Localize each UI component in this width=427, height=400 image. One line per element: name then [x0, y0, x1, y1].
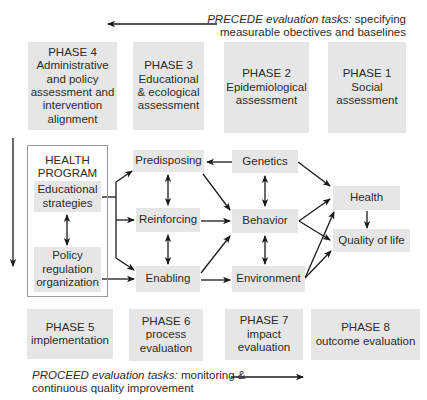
phase-2-desc-2: assessment — [236, 94, 297, 107]
policy-line1: Policy — [52, 249, 83, 262]
phase-2-box: PHASE 2 Epidemiological assessment — [224, 42, 309, 133]
behavior-to-health-arrow — [299, 199, 330, 221]
environment-box: Environment — [232, 266, 305, 292]
phase-4-desc-4: intervention — [43, 99, 102, 112]
phase-4-desc-1: Administrative — [36, 59, 108, 72]
phase-7-box: PHASE 7 impact evaluation — [225, 309, 303, 360]
edu-to-predisposing-arrow — [116, 171, 132, 182]
environment-label: Environment — [236, 272, 301, 285]
quality-of-life-box: Quality of life — [333, 229, 410, 252]
phase-6-desc-1: process — [146, 328, 186, 341]
reinforcing-label: Reinforcing — [139, 213, 197, 226]
enabling-box: Enabling — [136, 266, 200, 292]
enabling-label: Enabling — [146, 272, 191, 285]
policy-line2: regulation — [42, 263, 93, 276]
phase-4-desc-3: assessment and — [31, 86, 115, 99]
phase-3-title: PHASE 3 — [144, 59, 193, 72]
genetics-to-health-arrow — [298, 162, 330, 186]
phase-5-title: PHASE 5 — [46, 321, 95, 334]
policy-line3: organization — [36, 276, 99, 289]
health-box: Health — [333, 186, 400, 210]
phase-1-desc-1: Social — [351, 81, 382, 94]
phase-8-title: PHASE 8 — [341, 321, 390, 334]
proceed-note: PROCEED evaluation tasks: monitoring & c… — [32, 369, 246, 395]
proceed-note-label: PROCEED evaluation tasks: — [32, 369, 178, 381]
educational-strategies-line2: strategies — [43, 197, 93, 210]
phase-8-box: PHASE 8 outcome evaluation — [311, 309, 420, 360]
environment-to-qol-arrow — [305, 251, 331, 278]
phase-4-box: PHASE 4 Administrative and policy assess… — [28, 42, 117, 130]
health-program-title: HEALTH PROGRAM — [28, 154, 107, 181]
predisposing-box: Predisposing — [133, 150, 204, 172]
phase-3-desc-3: assessment — [138, 99, 199, 112]
genetics-box: Genetics — [232, 150, 298, 173]
edu-to-enabling-arrow — [116, 258, 134, 270]
phase-4-desc-5: alignment — [48, 113, 98, 126]
educational-strategies-line1: Educational — [37, 183, 97, 196]
educational-strategies-box: Educational strategies — [34, 181, 101, 212]
phase-1-box: PHASE 1 Social assessment — [328, 42, 406, 133]
precede-note: PRECEDE evaluation tasks: specifying mea… — [207, 13, 406, 39]
reinforcing-box: Reinforcing — [136, 208, 200, 232]
phase-6-title: PHASE 6 — [142, 315, 191, 328]
predisposing-to-behavior-arrow — [203, 174, 230, 210]
phase-2-desc-1: Epidemiological — [226, 81, 307, 94]
behavior-label: Behavior — [242, 214, 287, 227]
phase-2-title: PHASE 2 — [242, 67, 291, 80]
phase-1-desc-2: assessment — [336, 94, 397, 107]
health-program-title-line2: PROGRAM — [28, 167, 107, 180]
phase-4-title: PHASE 4 — [48, 46, 97, 59]
precede-note-label: PRECEDE evaluation tasks: — [207, 13, 351, 25]
genetics-label: Genetics — [242, 155, 287, 168]
proceed-note-line2: continuous quality improvement — [32, 382, 246, 395]
quality-of-life-label: Quality of life — [338, 234, 404, 247]
policy-regulation-box: Policy regulation organization — [34, 247, 101, 292]
health-label: Health — [350, 191, 383, 204]
phase-5-desc-1: implementation — [31, 334, 109, 347]
health-program-title-line1: HEALTH — [28, 154, 107, 167]
phase-8-desc-1: outcome evaluation — [316, 335, 416, 348]
phase-4-desc-2: and policy — [47, 73, 99, 86]
phase-7-desc-2: evaluation — [238, 341, 290, 354]
precede-note-line2: measurable obectives and baselines — [207, 26, 406, 39]
phase-6-box: PHASE 6 process evaluation — [129, 309, 203, 361]
phase-3-desc-1: Educational — [138, 73, 198, 86]
phase-3-box: PHASE 3 Educational & ecological assessm… — [133, 42, 204, 130]
predisposing-label: Predisposing — [135, 154, 201, 167]
behavior-box: Behavior — [232, 209, 298, 233]
precede-note-text: specifying — [352, 13, 406, 25]
phase-5-box: PHASE 5 implementation — [27, 309, 113, 359]
phase-7-title: PHASE 7 — [240, 314, 289, 327]
phase-1-title: PHASE 1 — [343, 67, 392, 80]
proceed-note-text: monitoring & — [178, 369, 246, 381]
enabling-to-behavior-arrow — [201, 236, 230, 273]
phase-3-desc-2: & ecological — [137, 86, 199, 99]
environment-to-health-arrow — [305, 212, 334, 278]
phase-7-desc-1: impact — [247, 328, 281, 341]
phase-6-desc-2: evaluation — [140, 342, 192, 355]
